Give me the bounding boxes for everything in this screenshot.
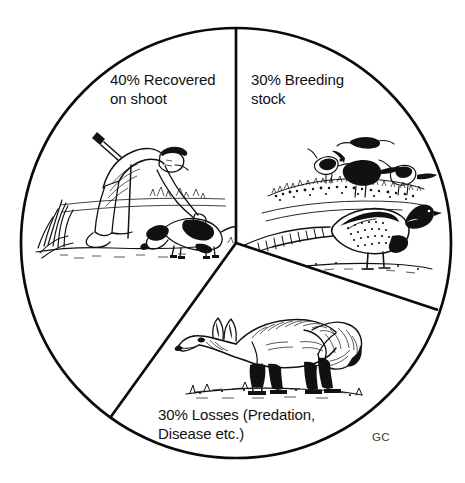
slice-label-recovered-line2: on shoot <box>110 90 168 107</box>
pie-chart-figure: 40% Recovered on shoot <box>0 0 465 483</box>
slice-label-breeding-line1: 30% Breeding <box>251 71 344 88</box>
slice-label-losses-line1: 30% Losses (Predation, <box>158 406 315 423</box>
artist-signature: GC <box>372 431 390 443</box>
slice-label-losses-line2: Disease etc.) <box>158 425 244 442</box>
slice-label-recovered-line1: 40% Recovered <box>110 71 215 88</box>
slice-label-breeding-line2: stock <box>251 90 286 107</box>
pie-chart-canvas: 40% Recovered on shoot <box>0 0 465 483</box>
